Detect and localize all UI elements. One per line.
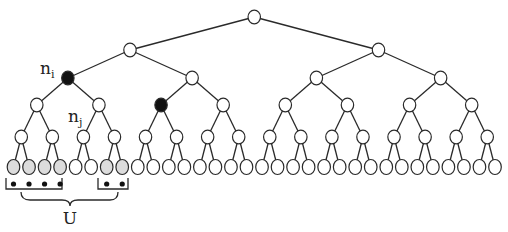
tree-node <box>357 130 369 144</box>
leaf-node <box>209 160 222 175</box>
tree-node <box>326 130 338 144</box>
leaf-node <box>225 160 238 175</box>
tree-node <box>139 130 151 144</box>
leaf-node <box>364 160 377 175</box>
tree-node <box>434 71 446 85</box>
leaf-node <box>287 160 300 175</box>
tree-node <box>15 130 27 144</box>
leaf-node <box>349 160 362 175</box>
label-n-i: ni <box>40 58 55 81</box>
tree-nodes <box>7 10 501 174</box>
leaf-node <box>69 160 82 175</box>
u-element-dot <box>11 181 16 186</box>
leaf-node-shaded <box>7 160 20 175</box>
tree-node <box>279 98 291 112</box>
leaf-node <box>458 160 471 175</box>
tree-node <box>201 130 213 144</box>
tree-edge <box>130 17 254 50</box>
tree-edge <box>130 50 192 78</box>
tree-node <box>31 98 43 112</box>
tree-node <box>388 130 400 144</box>
tree-node <box>217 98 229 112</box>
leaf-node <box>380 160 393 175</box>
tree-node <box>93 98 105 112</box>
tree-node <box>341 98 353 112</box>
leaf-node <box>240 160 253 175</box>
tree-edge <box>316 50 378 78</box>
leaf-node <box>302 160 315 175</box>
leaf-node <box>489 160 502 175</box>
tree-edge <box>254 17 378 50</box>
leaf-node-shaded <box>23 160 36 175</box>
label-u: U <box>63 208 77 228</box>
leaf-node <box>411 160 424 175</box>
leaf-node <box>333 160 346 175</box>
leaf-node <box>271 160 284 175</box>
leaf-node-shaded <box>116 160 129 175</box>
node-n-j <box>155 98 167 112</box>
u-element-dot <box>120 181 125 186</box>
leaf-node <box>318 160 331 175</box>
tree-node <box>372 43 384 57</box>
leaf-node-shaded <box>54 160 67 175</box>
curly-brace <box>21 192 118 206</box>
u-element-dot <box>26 181 31 186</box>
tree-node <box>108 130 120 144</box>
leaf-node-shaded <box>100 160 113 175</box>
node-n-i <box>62 71 74 85</box>
label-n-j: nj <box>68 106 82 129</box>
leaf-node <box>178 160 191 175</box>
tree-node <box>248 10 260 24</box>
tree-node <box>481 130 493 144</box>
leaf-node <box>163 160 176 175</box>
leaf-node <box>147 160 160 175</box>
tree-node <box>186 71 198 85</box>
tree-node <box>46 130 58 144</box>
tree-node <box>170 130 182 144</box>
tree-edge <box>379 50 441 78</box>
leaf-node <box>256 160 269 175</box>
leaf-node <box>131 160 144 175</box>
tree-edge <box>68 50 130 78</box>
u-element-dot <box>104 181 109 186</box>
tree-node <box>419 130 431 144</box>
tree-node <box>233 130 245 144</box>
tree-node <box>403 98 415 112</box>
leaf-node <box>194 160 207 175</box>
leaf-node <box>396 160 409 175</box>
tree-node <box>310 71 322 85</box>
tree-node <box>77 130 89 144</box>
u-element-dot <box>42 181 47 186</box>
leaf-node <box>85 160 98 175</box>
tree-node <box>124 43 136 57</box>
tree-node <box>295 130 307 144</box>
leaf-node-shaded <box>38 160 51 175</box>
leaf-node <box>442 160 455 175</box>
leaf-node <box>427 160 440 175</box>
tree-node <box>450 130 462 144</box>
u-element-dot <box>57 181 62 186</box>
tree-edges <box>14 17 496 167</box>
leaf-dots <box>11 181 125 186</box>
binary-tree-diagram: U ni nj <box>0 0 508 232</box>
set-u-annotation: U <box>6 178 128 228</box>
leaf-node <box>473 160 486 175</box>
tree-node <box>466 98 478 112</box>
tree-node <box>264 130 276 144</box>
